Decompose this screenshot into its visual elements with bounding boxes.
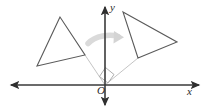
origin-to-preimage-ray [85, 55, 105, 85]
geometry-figure: y x O [0, 0, 208, 112]
origin-label: O [97, 85, 105, 96]
right-triangle [123, 12, 177, 58]
x-axis-label: x [187, 86, 192, 97]
left-triangle [37, 17, 85, 66]
curved-rotation-arrow [88, 31, 124, 44]
y-axis-label: y [110, 2, 115, 13]
